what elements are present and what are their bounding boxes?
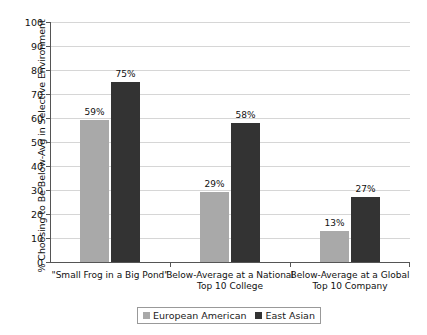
gridline xyxy=(51,46,410,47)
bar-value-label: 58% xyxy=(235,110,255,120)
category-label-line: Below-Average at a National xyxy=(162,270,298,281)
y-axis-tick xyxy=(46,262,50,263)
bar-value-label: 75% xyxy=(115,69,135,79)
bar xyxy=(111,82,140,262)
legend: European American East Asian xyxy=(137,307,321,324)
y-axis-tick-label: 100 xyxy=(25,17,43,28)
y-axis-tick xyxy=(46,46,50,47)
bar-chart: % Choosing to Be Below-Avg in Selective … xyxy=(0,0,427,335)
category-separator-tick xyxy=(290,262,291,267)
y-axis-tick xyxy=(46,142,50,143)
y-axis-tick-label: 60 xyxy=(31,113,43,124)
gridline xyxy=(51,118,410,119)
category-label: Below-Average at a GlobalTop 10 Company xyxy=(282,270,418,292)
x-axis-line xyxy=(50,262,410,263)
category-label: "Small Frog in a Big Pond" xyxy=(42,270,178,281)
y-axis-tick xyxy=(46,166,50,167)
legend-swatch-icon xyxy=(255,312,262,319)
category-label-line: Top 10 College xyxy=(162,281,298,292)
legend-label: East Asian xyxy=(265,310,314,321)
legend-item-european-american: European American xyxy=(143,310,246,321)
y-axis-tick-label: 90 xyxy=(31,41,43,52)
category-separator-tick xyxy=(170,262,171,267)
bar-value-label: 29% xyxy=(204,179,224,189)
y-axis-tick-label: 80 xyxy=(31,65,43,76)
category-label-line: Top 10 Company xyxy=(282,281,418,292)
bar xyxy=(320,231,349,262)
bar-value-label: 13% xyxy=(324,218,344,228)
y-axis-tick-label: 0 xyxy=(37,257,43,268)
category-label: Below-Average at a NationalTop 10 Colleg… xyxy=(162,270,298,292)
y-axis-tick xyxy=(46,70,50,71)
y-axis-tick xyxy=(46,238,50,239)
y-axis-tick-label: 10 xyxy=(31,233,43,244)
y-axis-tick-label: 20 xyxy=(31,209,43,220)
plot-area: 0102030405060708090100 59%75%29%58%13%27… xyxy=(50,22,410,263)
category-label-line: "Small Frog in a Big Pond" xyxy=(42,270,178,281)
gridline xyxy=(51,22,410,23)
y-axis-tick-label: 40 xyxy=(31,161,43,172)
y-axis-tick-label: 50 xyxy=(31,137,43,148)
legend-item-east-asian: East Asian xyxy=(255,310,314,321)
bar xyxy=(80,120,109,262)
y-axis-tick xyxy=(46,214,50,215)
y-axis-tick xyxy=(46,190,50,191)
category-label-line: Below-Average at a Global xyxy=(282,270,418,281)
category-separator-tick xyxy=(409,262,410,267)
y-axis-tick xyxy=(46,118,50,119)
bar xyxy=(351,197,380,262)
gridline xyxy=(51,94,410,95)
bar xyxy=(200,192,229,262)
legend-swatch-icon xyxy=(143,312,150,319)
bar-value-label: 27% xyxy=(355,184,375,194)
bar xyxy=(231,123,260,262)
legend-label: European American xyxy=(153,310,246,321)
gridline xyxy=(51,70,410,71)
y-axis-tick-label: 70 xyxy=(31,89,43,100)
y-axis-tick xyxy=(46,22,50,23)
y-axis-tick xyxy=(46,94,50,95)
y-axis-tick-label: 30 xyxy=(31,185,43,196)
bar-value-label: 59% xyxy=(84,107,104,117)
